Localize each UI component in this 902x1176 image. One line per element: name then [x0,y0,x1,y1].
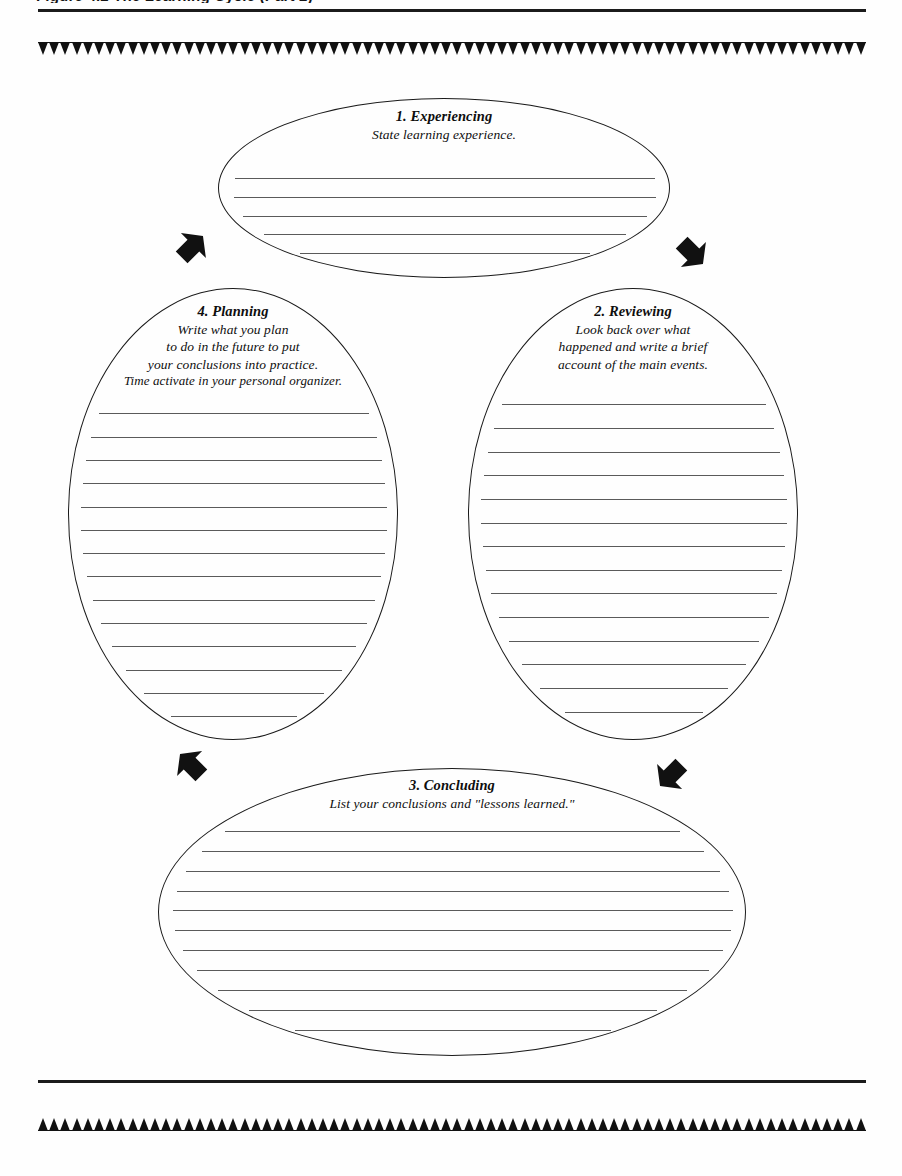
writing-line [177,891,730,892]
band-tooth [710,42,720,55]
writing-line [218,990,687,991]
ellipse-planning[interactable]: 4. Planning Write what you plan to do in… [68,288,398,740]
band-tooth [284,42,294,55]
band-tooth [172,42,182,55]
writing-line [173,910,733,911]
band-tooth [755,42,765,55]
band-tooth [721,42,731,55]
writing-line [494,428,775,429]
planning-subtitle-line-2: to do in the future to put [69,338,397,356]
band-tooth [452,42,462,55]
band-tooth [430,42,440,55]
band-tooth [833,42,843,55]
band-tooth [598,42,608,55]
writing-line [300,253,590,254]
band-tooth [788,42,798,55]
band-tooth [318,42,328,55]
band-tooth [800,42,810,55]
band-tooth [307,42,317,55]
writing-line [235,178,656,179]
band-tooth [251,42,261,55]
writing-line [171,716,298,717]
band-tooth [822,42,832,55]
experiencing-subtitle-line-1: State learning experience. [219,126,669,144]
reviewing-subtitle-line-3: account of the main events. [469,356,797,374]
ellipse-reviewing[interactable]: 2. Reviewing Look back over what happene… [468,288,798,740]
reviewing-writing-lines[interactable] [469,289,797,739]
writing-line [101,623,367,624]
writing-line [243,216,647,217]
band-tooth [531,42,541,55]
band-hairline-bottom [38,1130,866,1131]
band-tooth [139,42,149,55]
band-tooth [116,42,126,55]
writing-line [197,970,709,971]
writing-line [295,1030,612,1031]
reviewing-title: 2. Reviewing [469,303,797,320]
concluding-writing-lines[interactable] [159,769,745,1055]
band-tooth [699,42,709,55]
band-tooth [811,42,821,55]
band-tooth [38,42,48,55]
band-tooth [497,42,507,55]
band-tooth [766,42,776,55]
writing-line [186,871,720,872]
ellipse-experiencing[interactable]: 1. Experiencing State learning experienc… [218,98,670,278]
writing-line [249,1010,656,1011]
writing-line [87,576,381,577]
writing-line [112,646,357,647]
writing-line [565,712,704,713]
experiencing-writing-lines[interactable] [219,99,669,277]
band-tooth [564,42,574,55]
band-tooth [60,42,70,55]
writing-line [81,530,386,531]
experiencing-heading: 1. Experiencing State learning experienc… [219,108,669,143]
writing-line [488,452,781,453]
ellipse-concluding[interactable]: 3. Concluding List your conclusions and … [158,768,746,1056]
band-tooth [94,42,104,55]
band-tooth [744,42,754,55]
worksheet-page: Figure 4.2 The Learning Cycle (Part 2) 1… [0,0,902,1176]
writing-line [225,831,680,832]
writing-line [481,523,787,524]
running-head: Figure 4.2 The Learning Cycle (Part 2) [36,0,866,3]
writing-line [91,437,377,438]
band-tooth [688,42,698,55]
band-tooth [486,42,496,55]
band-tooth [150,42,160,55]
writing-line [499,617,769,618]
writing-line [502,404,766,405]
bottom-horizontal-rule [38,1080,866,1083]
arrow-concluding-to-planning-icon [165,742,223,794]
band-tooth [49,42,59,55]
writing-line [175,930,731,931]
planning-subtitle-line-3: your conclusions into practice. [69,356,397,374]
writing-line [83,483,386,484]
band-tooth [374,42,384,55]
planning-title: 4. Planning [69,303,397,320]
band-tooth [419,42,429,55]
writing-line [202,851,704,852]
band-tooth [508,42,518,55]
band-tooth [856,42,866,55]
band-tooth [206,42,216,55]
band-tooth [520,42,530,55]
band-tooth [542,42,552,55]
band-tooth [105,42,115,55]
band-tooth [408,42,418,55]
writing-line [234,197,656,198]
band-tooth [553,42,563,55]
reviewing-heading: 2. Reviewing Look back over what happene… [469,303,797,373]
band-tooth [732,42,742,55]
band-hairline-top [38,42,866,43]
arrow-reviewing-to-concluding-icon [645,746,703,798]
band-tooth [441,42,451,55]
band-tooth [475,42,485,55]
planning-heading: 4. Planning Write what you plan to do in… [69,303,397,390]
band-tooth [844,42,854,55]
band-tooth [620,42,630,55]
planning-writing-lines[interactable] [69,289,397,739]
band-tooth [385,42,395,55]
band-tooth [643,42,653,55]
band-tooth [83,42,93,55]
